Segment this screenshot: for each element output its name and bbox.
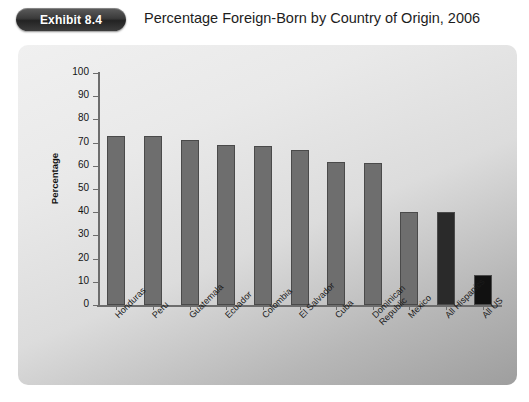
bar <box>291 150 309 305</box>
y-tick-mark <box>93 119 98 120</box>
y-tick-label: 30 <box>78 228 89 239</box>
y-tick-label: 60 <box>78 159 89 170</box>
y-tick-mark <box>93 212 98 213</box>
bar-chart: Percentage 0102030405060708090100 Hondur… <box>18 45 517 385</box>
y-tick-mark <box>93 166 98 167</box>
bar <box>364 163 382 305</box>
y-tick-label: 0 <box>83 298 89 309</box>
bar <box>144 136 162 305</box>
y-tick-label: 40 <box>78 205 89 216</box>
bar <box>181 140 199 305</box>
exhibit-badge: Exhibit 8.4 <box>16 8 126 31</box>
y-tick-label: 10 <box>78 275 89 286</box>
y-tick-mark <box>93 189 98 190</box>
y-tick-label: 70 <box>78 136 89 147</box>
y-tick-mark <box>93 143 98 144</box>
exhibit-header: Exhibit 8.4 Percentage Foreign-Born by C… <box>0 0 529 45</box>
plot-area: 0102030405060708090100 <box>98 73 501 305</box>
y-tick-label: 80 <box>78 112 89 123</box>
y-tick-mark <box>93 73 98 74</box>
page-title: Percentage Foreign-Born by Country of Or… <box>144 10 480 26</box>
bar <box>107 136 125 305</box>
y-tick-mark <box>93 282 98 283</box>
y-tick-label: 100 <box>72 66 89 77</box>
y-tick-mark <box>93 305 98 306</box>
bar <box>254 146 272 305</box>
bar <box>437 212 455 305</box>
y-tick-label: 50 <box>78 182 89 193</box>
y-tick-mark <box>93 235 98 236</box>
y-tick-mark <box>93 259 98 260</box>
y-tick-label: 90 <box>78 89 89 100</box>
y-tick-mark <box>93 96 98 97</box>
y-tick-label: 20 <box>78 252 89 263</box>
chart-panel: Percentage 0102030405060708090100 Hondur… <box>18 45 517 385</box>
bar <box>217 145 235 305</box>
exhibit-badge-label: Exhibit 8.4 <box>40 13 102 27</box>
y-axis-title: Percentage <box>49 144 60 214</box>
